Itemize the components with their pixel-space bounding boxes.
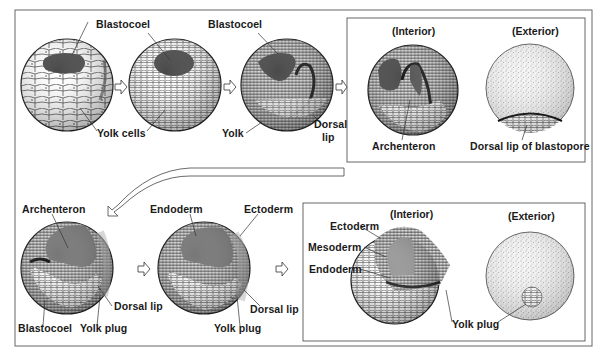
label-yolk-plug-stage-5: Yolk plug <box>80 322 127 334</box>
stage-7-interior-embryo <box>351 226 452 324</box>
label-ectoderm-stage-7: Ectoderm <box>330 220 379 232</box>
label-dorsal-lip-stage-3-line1: Dorsal <box>314 118 347 130</box>
diagram-canvas <box>0 0 608 356</box>
header-exterior-top: (Exterior) <box>512 25 559 37</box>
label-blastocoel-stage-1: Blastocoel <box>96 18 150 30</box>
label-dorsal-lip-of-blastopore: Dorsal lip of blastopore <box>470 140 590 152</box>
label-archenteron-stage-4: Archenteron <box>372 140 436 152</box>
label-dorsal-lip-stage-3-line2: lip <box>322 131 335 143</box>
header-interior-bottom: (Interior) <box>390 208 433 220</box>
label-endoderm-stage-7: Endoderm <box>309 263 362 275</box>
label-endoderm-stage-6: Endoderm <box>150 203 203 215</box>
stage-2-embryo <box>129 33 221 131</box>
stage-1-embryo <box>21 22 113 131</box>
stage-6-embryo <box>158 214 260 326</box>
stage-7-exterior-embryo <box>486 232 574 322</box>
label-dorsal-lip-stage-5: Dorsal lip <box>114 300 163 312</box>
label-archenteron-stage-5: Archenteron <box>22 203 86 215</box>
label-yolk-cells: Yolk cells <box>97 127 146 139</box>
label-blastocoel-stage-3: Blastocoel <box>208 18 262 30</box>
label-yolk: Yolk <box>222 127 244 139</box>
right-arrow-icon <box>115 80 127 94</box>
label-blastocoel-stage-5: Blastocoel <box>18 322 72 334</box>
label-mesoderm-stage-7: Mesoderm <box>308 241 361 253</box>
stage-4-interior-embryo <box>368 45 458 140</box>
right-arrow-icon <box>138 262 150 276</box>
header-exterior-bottom: (Exterior) <box>508 210 555 222</box>
label-dorsal-lip-stage-6: Dorsal lip <box>250 303 299 315</box>
label-yolk-plug-stage-7: Yolk plug <box>452 318 499 330</box>
right-arrow-icon <box>224 80 236 94</box>
curved-arrow-icon <box>108 168 344 216</box>
label-ectoderm-stage-6: Ectoderm <box>244 203 293 215</box>
header-interior-top: (Interior) <box>392 25 435 37</box>
stage-5-embryo <box>21 214 113 326</box>
right-arrow-icon <box>276 262 288 276</box>
label-yolk-plug-stage-6: Yolk plug <box>214 322 261 334</box>
gastrulation-diagram: Blastocoel Yolk cells Blastocoel Yolk Do… <box>0 0 608 356</box>
right-arrow-icon <box>336 80 347 94</box>
stage-4-exterior-embryo <box>486 44 574 140</box>
